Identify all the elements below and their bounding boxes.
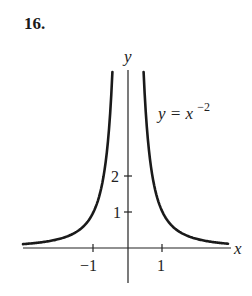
curve-left-branch — [23, 72, 112, 244]
y-tick-label-1: 1 — [113, 204, 121, 221]
y-axis-label: y — [122, 47, 132, 66]
equation-base: y = x — [156, 104, 194, 123]
x-tick-label-1: 1 — [157, 257, 165, 274]
curve-right-branch — [144, 72, 228, 244]
y-tick-label-2: 2 — [111, 168, 119, 185]
x-axis-label: x — [233, 239, 242, 258]
graph-plot: y x −1 1 2 1 y = x −2 — [0, 0, 252, 296]
equation-exponent: −2 — [197, 100, 210, 114]
equation-label: y = x −2 — [156, 100, 210, 123]
x-tick-label-neg1: −1 — [80, 257, 97, 274]
